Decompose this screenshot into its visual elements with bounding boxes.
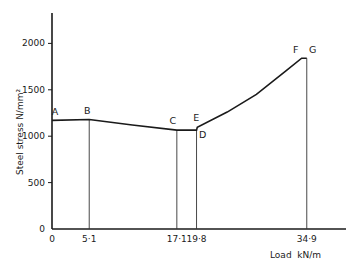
point-label-c: C [170,115,177,126]
point-label-f: F [293,44,298,55]
x-axis-label: Load kN/m [270,250,321,260]
steel-stress-chart: 050010001500200005·117·119·834·9 ABCDEFG… [0,0,356,271]
stress-curve [52,58,307,130]
x-tick-label: 0 [49,234,55,244]
y-axis-label: Steel stress N/mm² [15,89,25,175]
y-tick-label: 1000 [22,131,45,141]
point-label-b: B [84,105,91,116]
point-label-a: A [52,106,59,117]
x-tick-label: 19·8 [187,234,207,244]
point-label-e: E [193,112,199,123]
point-label-g: G [309,44,316,55]
point-label-d: D [199,129,206,140]
x-tick-label: 5·1 [82,234,96,244]
y-tick-label: 2000 [22,38,45,48]
y-tick-label: 500 [28,178,45,188]
x-tick-label: 34·9 [297,234,317,244]
y-tick-label: 1500 [22,85,45,95]
y-tick-label: 0 [39,224,45,234]
x-tick-label: 17·1 [167,234,187,244]
